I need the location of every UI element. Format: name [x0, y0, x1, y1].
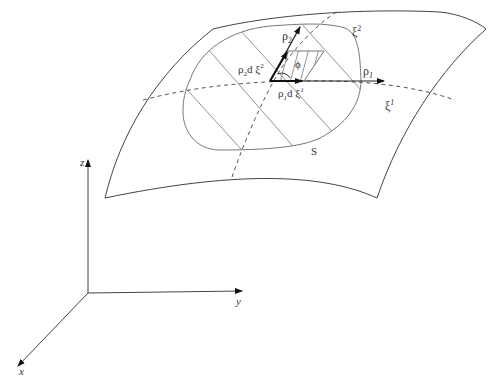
surface-bottom-edge	[105, 179, 377, 199]
surface-left-edge	[105, 29, 213, 198]
angle-phi-label: ϕ	[295, 58, 301, 70]
angle-arc	[278, 73, 290, 78]
region-s-label: S	[311, 145, 317, 157]
surface-right-edge	[377, 29, 486, 198]
x-axis	[18, 293, 88, 366]
surface-top-edge	[213, 11, 486, 29]
y-axis-label: y	[235, 295, 241, 307]
coordinate-axes: z y x	[18, 156, 242, 377]
curved-surface	[105, 11, 486, 198]
xi2-label: ξ2	[352, 24, 361, 39]
rho2-label: ρ2	[282, 29, 292, 45]
rho1-label: ρ1	[363, 64, 373, 80]
y-axis	[88, 291, 242, 293]
rho1-dxi1-label: ρ1d ξ1	[278, 86, 304, 102]
xi1-label: ξ1	[385, 98, 394, 113]
z-axis-label: z	[79, 156, 85, 168]
surface-diagram: ρ2 ρ1 ρ2d ξ2 ρ1d ξ1 ϕ ξ2 ξ1 S z y x	[0, 0, 498, 385]
x-axis-label: x	[18, 365, 24, 377]
rho2-dxi2-label: ρ2d ξ2	[238, 62, 264, 78]
